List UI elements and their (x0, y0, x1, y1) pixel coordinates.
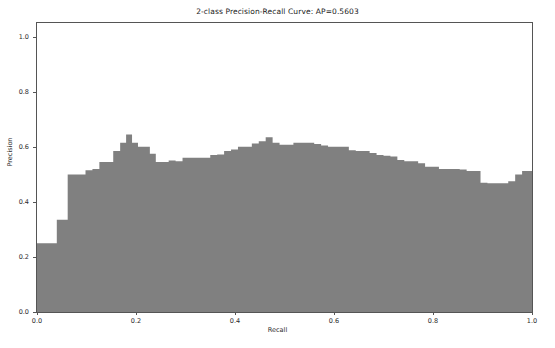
x-tick-mark (136, 312, 137, 315)
chart-title: 2-class Precision-Recall Curve: AP=0.560… (0, 7, 555, 16)
y-tick-label: 0.6 (7, 143, 29, 151)
y-tick-mark (33, 92, 36, 93)
pr-curve-figure: 2-class Precision-Recall Curve: AP=0.560… (0, 0, 555, 348)
y-tick-mark (33, 312, 36, 313)
x-tick-label: 0.8 (418, 317, 448, 325)
x-tick-mark (334, 312, 335, 315)
x-tick-mark (433, 312, 434, 315)
y-tick-label: 1.0 (7, 33, 29, 41)
y-tick-mark (33, 257, 36, 258)
x-tick-label: 0.4 (220, 317, 250, 325)
x-tick-mark (37, 312, 38, 315)
y-tick-label: 0.2 (7, 253, 29, 261)
y-tick-label: 0.4 (7, 198, 29, 206)
y-tick-label: 0.0 (7, 308, 29, 316)
x-tick-label: 0.0 (22, 317, 52, 325)
y-tick-mark (33, 37, 36, 38)
plot-area (36, 22, 533, 313)
y-tick-label: 0.8 (7, 88, 29, 96)
x-tick-label: 0.2 (121, 317, 151, 325)
x-tick-mark (532, 312, 533, 315)
x-tick-label: 0.6 (319, 317, 349, 325)
x-tick-label: 1.0 (517, 317, 547, 325)
precision-recall-step-area (37, 23, 532, 312)
x-axis-label: Recall (0, 326, 555, 334)
x-tick-mark (235, 312, 236, 315)
y-axis-label: Precision (6, 122, 14, 182)
y-tick-mark (33, 147, 36, 148)
y-tick-mark (33, 202, 36, 203)
